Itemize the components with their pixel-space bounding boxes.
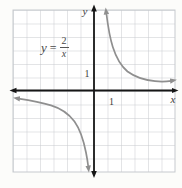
- y-axis-label: y: [82, 5, 88, 17]
- y-axis-tick-1: 1: [85, 68, 90, 79]
- equation-numerator: 2: [60, 36, 69, 48]
- equation-denominator: x: [62, 48, 66, 59]
- x-axis-label: x: [170, 93, 176, 105]
- equation-label: y = 2 x: [41, 36, 69, 59]
- function-graph-figure: y x 1 1 y = 2 x: [0, 0, 182, 188]
- equation-equals-sign: =: [50, 42, 57, 54]
- hyperbola-plot: y x 1 1: [0, 0, 182, 188]
- x-axis-tick-1: 1: [109, 96, 114, 107]
- equation-lhs: y: [41, 41, 47, 54]
- equation-fraction: 2 x: [60, 36, 69, 59]
